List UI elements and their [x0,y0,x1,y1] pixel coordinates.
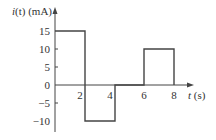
y-tick-labels: 15 10 5 0 −5 −10 [33,25,51,127]
x-axis-label: t (s) [188,89,206,102]
ytick-neg10: −10 [33,115,51,127]
current-waveform [55,31,174,121]
xtick-6: 6 [141,89,147,101]
ytick-10: 10 [39,43,51,55]
ytick-15: 15 [39,25,51,37]
xtick-8: 8 [171,89,177,101]
xtick-4: 4 [107,89,113,101]
x-axis-arrow-icon [187,83,194,88]
waveform-chart: 15 10 5 0 −5 −10 2 4 6 8 i(t) (mA) t (s) [0,0,216,140]
ytick-0: 0 [45,79,51,91]
x-tick-labels: 2 4 6 8 [77,89,177,101]
ytick-5: 5 [45,61,51,73]
ytick-neg5: −5 [38,97,50,109]
xtick-2: 2 [77,89,83,101]
y-axis-label: i(t) (mA) [12,5,52,18]
y-axis-arrow-icon [53,7,58,14]
